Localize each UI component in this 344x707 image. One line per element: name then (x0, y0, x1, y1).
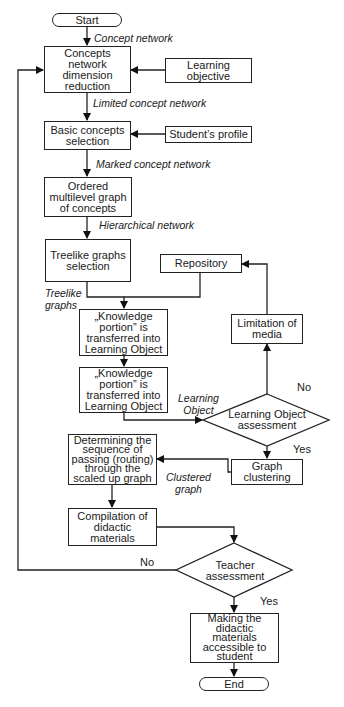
edge-label-limited-concept-network: Limited concept network (93, 98, 206, 109)
repository-box: Repository (160, 254, 242, 273)
edge-label-concept-network: Concept network (94, 33, 173, 44)
edge-label-hierarchical-network: Hierarchical network (99, 220, 194, 231)
knowledge-portion-box-1: „Knowledge portion” is transferred into … (79, 309, 168, 356)
treelike-selection-box: Treelike graphs selection (45, 239, 131, 282)
graph-clustering-box: Graph clustering (231, 459, 303, 485)
teacher-assessment-label: Teacher assessment (190, 558, 280, 584)
end-terminal: End (199, 677, 269, 691)
edge-label-clustered-graph: Clustered graph (166, 471, 211, 495)
learning-objective-box: Learning objective (165, 58, 252, 83)
knowledge-portion-box-2: „Knowledge portion” is transferred into … (79, 367, 168, 413)
limitation-media-box: Limitation of media (231, 314, 303, 344)
students-profile-box: Student’s profile (165, 126, 252, 143)
edge-label-treelike-graphs: Treelike graphs (45, 287, 82, 311)
edge-label-learning-object: Learning Object (178, 392, 219, 416)
basic-concepts-box: Basic concepts selection (44, 121, 131, 150)
edge-label-marked-concept-network: Marked concept network (96, 159, 210, 170)
teacher-no-label: No (140, 557, 154, 568)
determining-sequence-box: Determining the sequence of passing (rou… (68, 434, 157, 485)
teacher-yes-label: Yes (260, 596, 278, 607)
lo-no-label: No (297, 382, 311, 393)
lo-assessment-label: Learning Object assessment (215, 405, 319, 435)
making-accessible-box: Making the didactic materials accessible… (190, 613, 279, 663)
start-terminal: Start (52, 13, 122, 27)
ordered-graph-box: Ordered multilevel graph of concepts (44, 177, 132, 217)
concepts-reduction-box: Concepts network dimension reduction (44, 46, 131, 93)
compilation-box: Compilation of didactic materials (68, 508, 157, 546)
lo-yes-label: Yes (293, 444, 311, 455)
